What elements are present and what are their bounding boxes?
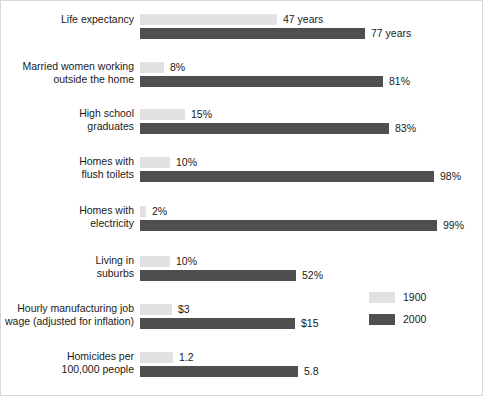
category-label: Hourly manufacturing job wage (adjusted … <box>1 301 134 327</box>
category-label: Homicides per 100,000 people <box>1 349 134 375</box>
chart-plot-area: Life expectancy 47 years 77 years Marrie… <box>1 1 484 397</box>
bar-pair: 15% 83% <box>140 106 484 146</box>
chart-group-homes-with-electricity: Homes with electricity 2% 99% <box>1 203 484 243</box>
bar-2000[interactable] <box>140 366 298 377</box>
bar-row-1900: 10% <box>140 256 484 267</box>
bar-value-1900: 2% <box>152 205 167 218</box>
chart-group-married-women-working: Married women working outside the home 8… <box>1 59 484 99</box>
bar-value-2000: 83% <box>395 122 416 135</box>
legend-swatch-1900-icon <box>369 292 395 303</box>
bar-1900[interactable] <box>140 206 146 217</box>
bar-value-2000: 99% <box>443 219 464 232</box>
bar-row-2000: 99% <box>140 220 484 231</box>
bar-row-2000: 52% <box>140 270 484 281</box>
bar-value-1900: 1.2 <box>179 351 194 364</box>
bar-pair: 10% 52% <box>140 253 484 293</box>
bar-row-1900: 1.2 <box>140 352 484 363</box>
bar-1900[interactable] <box>140 352 173 363</box>
bar-value-2000: 77 years <box>371 27 411 40</box>
bar-pair: 8% 81% <box>140 59 484 99</box>
bar-row-2000: 81% <box>140 76 484 87</box>
bar-value-1900: 47 years <box>283 13 323 26</box>
chart-legend: 1900 2000 <box>369 289 479 333</box>
bar-value-1900: 10% <box>176 156 197 169</box>
legend-label-1900: 1900 <box>403 289 426 306</box>
bar-value-2000: 5.8 <box>304 365 319 378</box>
bar-1900[interactable] <box>140 304 172 315</box>
bar-row-1900: 47 years <box>140 14 484 25</box>
bar-row-2000: 98% <box>140 171 484 182</box>
category-label: Homes with electricity <box>1 203 134 229</box>
legend-item-2000[interactable]: 2000 <box>369 311 479 333</box>
bar-2000[interactable] <box>140 123 389 134</box>
chart-group-high-school-graduates: High school graduates 15% 83% <box>1 106 484 146</box>
bar-2000[interactable] <box>140 270 296 281</box>
bar-1900[interactable] <box>140 256 170 267</box>
bar-value-1900: $3 <box>178 303 190 316</box>
category-label: High school graduates <box>1 106 134 132</box>
bar-row-1900: 8% <box>140 62 484 73</box>
bar-row-1900: 2% <box>140 206 484 217</box>
bar-1900[interactable] <box>140 62 164 73</box>
bar-row-1900: 10% <box>140 157 484 168</box>
chart-group-homes-with-flush-toilets: Homes with flush toilets 10% 98% <box>1 154 484 194</box>
bar-2000[interactable] <box>140 318 295 329</box>
bar-value-1900: 15% <box>191 108 212 121</box>
bar-2000[interactable] <box>140 28 365 39</box>
bar-value-1900: 10% <box>176 255 197 268</box>
bar-value-2000: 81% <box>389 75 410 88</box>
bar-value-2000: $15 <box>301 317 319 330</box>
bar-pair: 1.2 5.8 <box>140 349 484 389</box>
chart-group-living-in-suburbs: Living in suburbs 10% 52% <box>1 253 484 293</box>
category-label: Life expectancy <box>1 11 134 26</box>
bar-2000[interactable] <box>140 220 437 231</box>
bar-row-2000: 5.8 <box>140 366 484 377</box>
bar-value-1900: 8% <box>170 61 185 74</box>
legend-label-2000: 2000 <box>403 311 426 328</box>
bar-row-2000: 83% <box>140 123 484 134</box>
bar-row-2000: 77 years <box>140 28 484 39</box>
bar-1900[interactable] <box>140 109 185 120</box>
legend-item-1900[interactable]: 1900 <box>369 289 479 311</box>
bar-2000[interactable] <box>140 76 383 87</box>
category-label: Homes with flush toilets <box>1 154 134 180</box>
bar-1900[interactable] <box>140 14 277 25</box>
bar-2000[interactable] <box>140 171 434 182</box>
bar-pair: 10% 98% <box>140 154 484 194</box>
category-label: Married women working outside the home <box>1 59 134 85</box>
bar-value-2000: 98% <box>440 170 461 183</box>
bar-pair: 2% 99% <box>140 203 484 243</box>
chart-group-life-expectancy: Life expectancy 47 years 77 years <box>1 11 484 51</box>
bar-1900[interactable] <box>140 157 170 168</box>
chart-group-homicides: Homicides per 100,000 people 1.2 5.8 <box>1 349 484 389</box>
bar-pair: 47 years 77 years <box>140 11 484 51</box>
bar-value-2000: 52% <box>302 269 323 282</box>
legend-swatch-2000-icon <box>369 314 395 325</box>
category-label: Living in suburbs <box>1 253 134 279</box>
bar-row-1900: 15% <box>140 109 484 120</box>
chart-container: Life expectancy 47 years 77 years Marrie… <box>0 0 483 396</box>
